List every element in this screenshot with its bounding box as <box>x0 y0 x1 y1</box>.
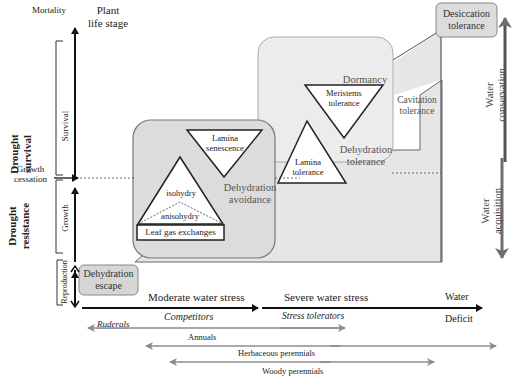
leaf-gas-exchanges-label: Leaf gas exchanges <box>137 227 224 237</box>
dehydration-escape-line1: Dehydration <box>79 268 138 280</box>
dehydration-avoidance-line2: avoidance <box>214 194 286 206</box>
anisohydry-label: anisohydry <box>150 212 210 222</box>
dormancy-label: Dormancy <box>335 74 395 86</box>
desiccation-tolerance-line1: Desiccation <box>436 8 497 20</box>
drought-survival-label: Drought survival <box>8 124 36 184</box>
drought-survival-line1: Drought <box>8 124 21 184</box>
isohydry-label: isohydry <box>156 189 206 199</box>
lamina-senescence-line2: senescence <box>195 144 255 154</box>
water-conservation-line1: Water <box>484 58 496 132</box>
dehydration-tolerance-line1: Dehydration <box>330 144 402 156</box>
plant-life-stage-line1: Plant <box>88 4 128 17</box>
plant-life-stage-line2: life stage <box>88 17 128 30</box>
meristems-tolerance-line2: tolerance <box>318 99 370 109</box>
cavitation-tolerance-label: Cavitation tolerance <box>392 95 442 117</box>
lamina-tolerance-label: Lamina tolerance <box>286 158 330 178</box>
dehydration-avoidance-line1: Dehydration <box>214 182 286 194</box>
stress-tolerators-label: Stress tolerators <box>282 311 344 322</box>
drought-resistance-line2: resistance <box>19 190 32 262</box>
meristems-tolerance-label: Meristems tolerance <box>318 89 370 109</box>
dehydration-escape-label: Dehydration escape <box>79 268 138 291</box>
desiccation-tolerance-line2: tolerance <box>436 20 497 32</box>
survival-label: Survival <box>60 106 72 146</box>
herbaceous-perennials-label: Herbaceous perennials <box>238 349 315 359</box>
water-conservation-label: Water conservation <box>484 58 510 132</box>
drought-survival-line2: survival <box>21 124 34 184</box>
drought-resistance-line1: Drought <box>6 190 19 262</box>
growth-label: Growth <box>60 198 72 238</box>
dehydration-tolerance-label: Dehydration tolerance <box>330 144 402 168</box>
dehydration-escape-line2: escape <box>79 280 138 292</box>
plant-life-stage-title: Plant life stage <box>88 4 128 29</box>
annuals-label: Annuals <box>188 333 216 343</box>
lamina-tolerance-line2: tolerance <box>286 168 330 178</box>
desiccation-tolerance-label: Desiccation tolerance <box>436 8 497 31</box>
drought-resistance-label: Drought resistance <box>6 190 34 262</box>
ruderals-label: Ruderals <box>97 319 130 329</box>
water-conservation-line2: conservation <box>496 58 508 132</box>
reproduction-label: Reproduction <box>60 250 72 314</box>
competitors-label: Competitors <box>164 311 213 323</box>
woody-perennials-label: Woody perennials <box>262 367 323 377</box>
dehydration-avoidance-label: Dehydration avoidance <box>214 182 286 206</box>
water-deficit-label-line1: Water <box>445 291 469 303</box>
cavitation-tolerance-line1: Cavitation <box>392 95 442 106</box>
water-acquisition-line2: acquisition <box>492 176 504 246</box>
mortality-label: Mortality <box>32 5 66 15</box>
severe-stress-label: Severe water stress <box>284 291 368 304</box>
water-deficit-label-line2: Deficit <box>445 313 473 325</box>
cavitation-tolerance-line2: tolerance <box>392 106 442 117</box>
water-acquisition-line1: Water <box>480 176 492 246</box>
moderate-stress-label: Moderate water stress <box>148 291 245 304</box>
dehydration-tolerance-line2: tolerance <box>330 156 402 168</box>
water-acquisition-label: Water acquisition <box>480 176 506 246</box>
lamina-senescence-label: Lamina senescence <box>195 134 255 154</box>
